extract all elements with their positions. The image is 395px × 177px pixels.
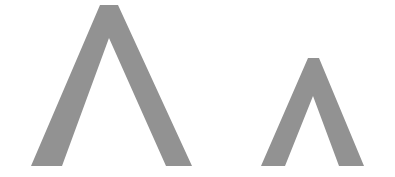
canvas [0,0,395,177]
large-caret-icon [31,5,192,166]
small-caret-icon [261,58,364,166]
caret-glyphs [0,0,395,177]
